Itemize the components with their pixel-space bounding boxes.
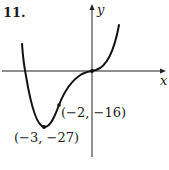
problem-number: 11. — [3, 6, 26, 19]
local-minimum-point — [42, 125, 46, 129]
point-label-minimum: (−3, −27) — [14, 131, 79, 144]
x-axis-label: x — [160, 74, 167, 87]
y-axis-label: y — [97, 3, 104, 16]
origin-point — [90, 69, 94, 73]
y-axis-arrow-icon — [90, 4, 95, 10]
graph-figure: 11. y x (−2, −16) (−3, −27) — [0, 0, 169, 170]
point-label-inflection: (−2, −16) — [61, 106, 126, 119]
